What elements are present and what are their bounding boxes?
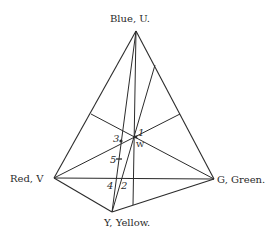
- edge-u-v: [54, 31, 136, 178]
- color-diagram: Blue, U. Red, V G, Green. Y, Yellow. 3 1…: [0, 0, 278, 241]
- label-point-5: 5: [110, 154, 116, 165]
- label-point-1: 1: [138, 127, 144, 138]
- point-w-dot: [135, 136, 138, 139]
- label-green-g: G, Green.: [217, 174, 265, 185]
- line-uv-g: [91, 114, 214, 179]
- label-point-2: 2: [120, 180, 127, 191]
- label-yellow-y: Y, Yellow.: [103, 217, 150, 228]
- inner-lines: [54, 31, 214, 212]
- edge-u-g: [136, 31, 214, 179]
- line-ug-v: [54, 114, 180, 178]
- label-red-v: Red, V: [10, 173, 44, 184]
- label-point-w: W: [136, 140, 145, 149]
- label-blue-u: Blue, U.: [110, 13, 150, 24]
- label-point-3: 3: [113, 133, 119, 144]
- edge-v-y: [54, 178, 112, 212]
- edge-v-g: [54, 178, 214, 179]
- label-point-4: 4: [106, 180, 113, 191]
- point-3-dot: [119, 139, 122, 142]
